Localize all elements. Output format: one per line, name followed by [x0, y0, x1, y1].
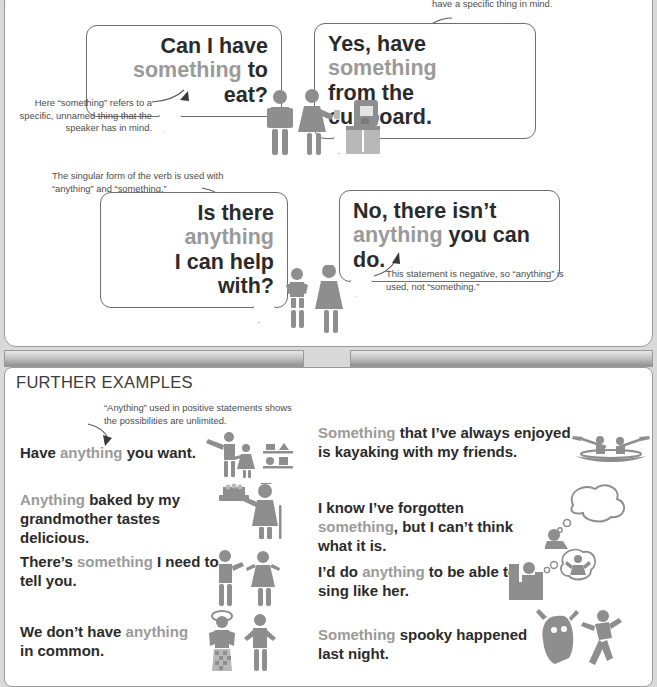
example-have-anything-you-want: Have anything you want. [20, 443, 210, 462]
example-pre: Have [20, 444, 60, 461]
illustration-child-and-adult [283, 265, 353, 335]
example-pre: There’s [20, 553, 77, 570]
bubble-line-1: Is there [198, 201, 274, 225]
illustration-ghost-chasing-running-person [535, 606, 625, 670]
example-pre: We don’t have [20, 623, 126, 640]
further-examples-title: FURTHER EXAMPLES [16, 373, 193, 392]
example-pre: I’d do [318, 563, 362, 580]
note-positive-unlimited: “Anything” used in positive statements s… [104, 402, 294, 427]
illustration-kayak-with-two-paddlers [572, 426, 650, 468]
note-specific-thing: Here “something” refers to a specific, u… [10, 97, 152, 135]
bubble-tail [350, 280, 372, 297]
example-id-do-anything-to-sing-like-her: I’d do anything to be able to sing like … [318, 562, 518, 600]
keyword-something: something [328, 56, 437, 80]
bubble-tail [159, 115, 181, 132]
illustration-clown-and-plain-person [200, 610, 295, 672]
bubble-line-2: I can help with? [175, 250, 274, 298]
illustration-man-child-shop-shelves [205, 429, 300, 479]
keyword-anything: anything [126, 623, 189, 640]
keyword-anything: anything [353, 223, 443, 247]
example-theres-something-i-need-to-tell-you: There’s something I need to tell you. [20, 552, 220, 590]
bubble-tail [253, 306, 275, 323]
keyword-something: something [318, 518, 394, 535]
example-we-dont-have-anything-in-common: We don’t have anything in common. [20, 622, 200, 660]
keyword-anything: anything [184, 225, 274, 249]
keyword-something: Something [318, 626, 396, 643]
example-something-ive-always-enjoyed-kayaking: Something that I’ve always enjoyed is ka… [318, 423, 573, 461]
page-gutter-right [350, 350, 653, 367]
illustration-two-people-talking [208, 548, 303, 608]
example-pre: I know I’ve forgotten [318, 499, 464, 516]
keyword-anything: anything [60, 444, 123, 461]
page-gutter-left [4, 350, 304, 367]
illustration-person-with-thought-cloud [545, 483, 635, 549]
example-post: in common. [20, 642, 104, 659]
keyword-something: Something [318, 424, 396, 441]
bubble-line-1: No, there isn’t [353, 199, 496, 223]
example-something-spooky-happened-last-night: Something spooky happened last night. [318, 625, 530, 663]
example-post: you want. [123, 444, 196, 461]
bubble-line-1: Can I have [160, 34, 268, 58]
example-anything-baked-by-grandmother: Anything baked by my grandmother tastes … [20, 490, 225, 547]
illustration-grandmother-with-cake-tray [217, 483, 297, 541]
illustration-kitchen-couple [262, 88, 382, 158]
illustration-person-in-armchair-dreaming-of-singer [505, 548, 605, 604]
bubble-is-there-anything-i-can-help-with: Is there anything I can help with? [100, 192, 288, 308]
example-i-know-ive-forgotten-something: I know I’ve forgotten something, but I c… [318, 498, 548, 555]
keyword-anything: anything [362, 563, 425, 580]
note-nonspecific-thing: have a specific thing in mind. [432, 0, 632, 11]
note-negative-statement: This statement is negative, so “anything… [386, 268, 574, 293]
keyword-something: something [77, 553, 153, 570]
keyword-anything: Anything [20, 491, 85, 508]
keyword-something: something [133, 58, 242, 82]
bubble-line-1: Yes, have [328, 32, 426, 56]
